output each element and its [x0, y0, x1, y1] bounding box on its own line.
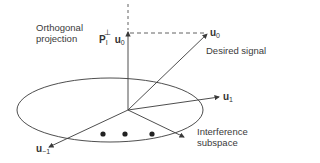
orthogonal-label-line1: Orthogonal	[36, 22, 83, 33]
interference-pointer	[128, 110, 184, 137]
u1-vector	[128, 97, 219, 110]
u1-sub: 1	[229, 96, 233, 103]
u-minus1-sub: −1	[42, 148, 50, 155]
projection-perp: ⊥	[104, 28, 111, 37]
dot-3	[149, 131, 154, 136]
u-minus1-label: u−1	[36, 143, 50, 155]
projection-sub: I	[106, 39, 108, 46]
interference-subspace-label: Interference subspace	[197, 126, 248, 148]
dot-2	[122, 131, 127, 136]
orthogonal-projection-label: Orthogonal projection	[36, 22, 83, 44]
interference-line2: subspace	[197, 137, 248, 148]
u1-label: u1	[223, 91, 233, 103]
projection-u-sub: 0	[121, 39, 125, 46]
orthogonal-label-line2: projection	[36, 33, 83, 44]
desired-u0-label: u0	[210, 27, 220, 39]
dot-1	[100, 131, 105, 136]
desired-signal-caption: Desired signal	[206, 45, 266, 56]
projection-symbol: PI⊥u0	[99, 32, 125, 46]
u0-sub: 0	[216, 32, 220, 39]
desired-signal-vector	[128, 34, 207, 110]
interference-line1: Interference	[197, 126, 248, 137]
